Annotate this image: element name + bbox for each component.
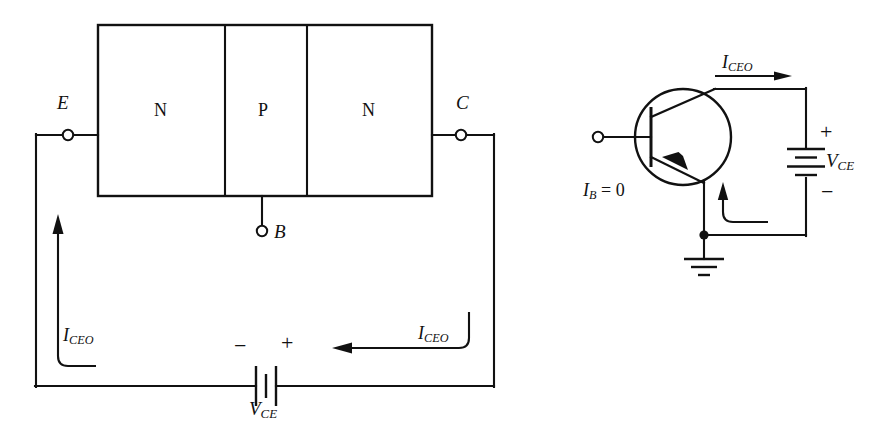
current-subscript-ceo2: CEO [424, 331, 448, 345]
base-current-value: = 0 [601, 180, 625, 200]
battery-negative-sign-right: − [821, 179, 833, 205]
emitter-wiring-right [699, 178, 806, 240]
emitter-lead [36, 130, 98, 140]
arrowhead-left [332, 343, 352, 354]
arrowhead-right [774, 72, 792, 81]
current-label-emitter-branch: ICEO [63, 325, 93, 348]
figure-canvas: N P N E C B ICEO ICEO − + VCE ICEO IB = … [0, 0, 875, 431]
battery-positive-sign-right: + [820, 119, 832, 145]
voltage-subscript-ce2: CE [838, 158, 855, 173]
collector-lead [432, 130, 494, 140]
battery-negative-sign-left: − [234, 333, 246, 359]
battery-label-vce-right: VCE [826, 150, 854, 174]
current-subscript-ceo3: CEO [728, 60, 752, 74]
region-label-n2: N [362, 100, 375, 121]
base-lead [257, 196, 267, 236]
voltage-symbol-v: V [249, 398, 261, 419]
current-subscript-ceo: CEO [69, 333, 93, 347]
current-arrow-emitter-right [718, 182, 768, 222]
arrowhead-up-right [718, 182, 728, 200]
base-terminal-node [257, 226, 267, 236]
region-label-p: P [258, 100, 268, 121]
transistor-symbol [593, 89, 731, 185]
current-label-collector-branch: ICEO [418, 323, 448, 346]
emitter-arrowhead [662, 152, 688, 170]
terminal-label-e: E [57, 92, 69, 114]
base-current-condition-label: IB = 0 [583, 180, 625, 203]
region-label-n1: N [154, 100, 167, 121]
voltage-subscript-ce: CE [261, 406, 278, 421]
terminal-label-c: C [456, 92, 469, 114]
base-terminal-node-symbol [593, 132, 603, 142]
battery-label-vce-left: VCE [249, 398, 277, 422]
battery-vce-right [787, 149, 825, 175]
voltage-symbol-v2: V [826, 150, 838, 171]
emitter-terminal-node [63, 130, 73, 140]
ground-symbol [684, 235, 724, 275]
battery-positive-sign-left: + [281, 330, 293, 356]
collector-terminal-node [456, 130, 466, 140]
terminal-label-b: B [274, 221, 286, 243]
current-label-top-right: ICEO [722, 52, 752, 75]
arrowhead-up [53, 214, 64, 234]
